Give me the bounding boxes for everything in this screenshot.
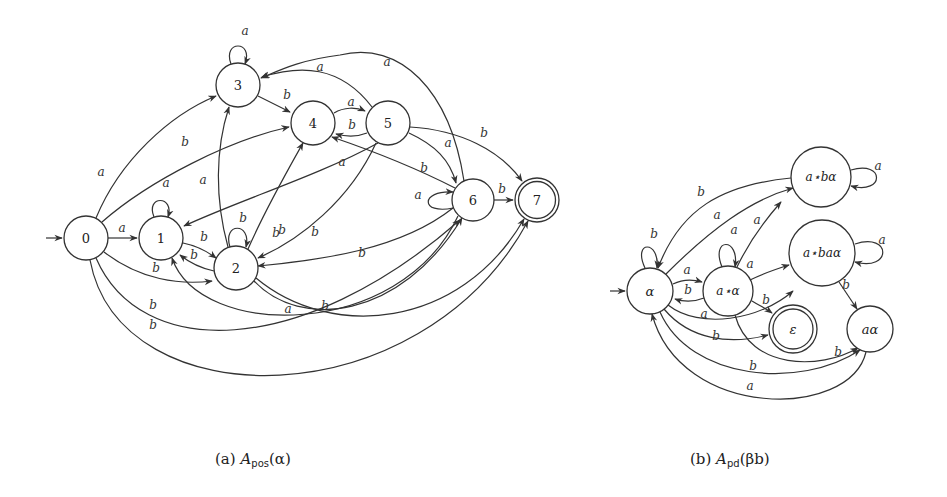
state-astar-ba-alpha: a⋆baα	[789, 220, 855, 286]
edge-label: b	[283, 88, 291, 102]
edge-label: b	[311, 225, 319, 239]
state-3: 3	[216, 63, 260, 107]
edge-label: b	[749, 359, 757, 373]
edge-label: a	[241, 24, 248, 38]
state-2: 2	[214, 246, 258, 290]
edge-3-3	[229, 46, 246, 64]
state-label: a⋆baα	[803, 246, 841, 260]
edge-astar-alpha-astar-alpha	[719, 245, 735, 268]
caption-prefix: (a)	[215, 450, 236, 468]
edge-label: b	[420, 161, 428, 175]
edge-label: b	[684, 283, 692, 297]
automaton-a-pos: a a b b b b a b b b a b a	[46, 24, 559, 376]
edge-label: b	[712, 329, 720, 343]
caption-b: (b) Apd(βb)	[690, 450, 770, 469]
edge-label: a	[414, 188, 421, 202]
edge-label: a	[383, 55, 390, 69]
state-label: 3	[234, 78, 242, 93]
edge-label: a	[444, 136, 451, 150]
edge-label: b	[190, 248, 198, 262]
edge-5-2	[258, 143, 376, 258]
state-label: a⋆α	[716, 284, 739, 298]
state-epsilon-final: ε	[769, 305, 817, 353]
edge-2-2	[229, 228, 247, 247]
edge-label: a	[199, 173, 206, 187]
edge-6-6	[428, 192, 453, 209]
caption-prefix: (b)	[690, 450, 711, 468]
edge-1-2	[183, 243, 216, 258]
edge-label: b	[348, 118, 356, 132]
state-label: α	[646, 284, 655, 299]
edge-label: a	[284, 302, 291, 316]
state-label: 4	[309, 116, 317, 131]
edge-label: b	[697, 185, 705, 199]
caption-symbol: A	[716, 450, 727, 468]
edge-label: b	[358, 246, 366, 260]
state-6: 6	[452, 179, 494, 221]
edge-label: a	[746, 257, 753, 271]
edge-5-1	[184, 143, 378, 226]
edge-label: a	[97, 165, 104, 179]
state-astar-alpha: a⋆α	[703, 266, 753, 316]
state-label: ε	[790, 322, 797, 337]
edge-alpha-alpha	[642, 247, 658, 268]
edge-6-2	[258, 208, 453, 266]
edge-label: a	[746, 379, 753, 393]
edge-label: b	[650, 227, 658, 241]
edge-label: a	[713, 208, 720, 222]
state-astar-b-alpha: a⋆bα	[791, 147, 851, 207]
caption-argument: (βb)	[740, 450, 770, 468]
state-4: 4	[291, 101, 335, 145]
edge-label: a	[700, 307, 707, 321]
edge-astar-alpha-alpha	[675, 298, 704, 301]
diagram-canvas: a a b b b b a b b b a b a	[0, 0, 947, 497]
edge-1-1	[152, 201, 169, 218]
state-label: 7	[533, 193, 541, 208]
edge-label: a	[162, 176, 169, 190]
state-label: a⋆bα	[806, 170, 837, 184]
state-1: 1	[139, 216, 183, 260]
edge-label: b	[181, 135, 189, 149]
edge-label: a	[316, 60, 323, 74]
state-7-final: 7	[515, 178, 559, 222]
edge-label: b	[149, 318, 157, 332]
edge-label: a	[730, 223, 737, 237]
edge-label: b	[834, 345, 842, 359]
caption-symbol: A	[240, 450, 251, 468]
caption-subscript: pd	[727, 458, 740, 469]
edge-label: a	[753, 213, 760, 227]
edge-label: b	[278, 223, 286, 237]
edge-alpha-a-alpha	[660, 312, 860, 374]
state-a-alpha: aα	[847, 306, 893, 352]
state-label: 6	[469, 193, 477, 208]
state-label: 2	[232, 261, 240, 276]
edge-5-4	[336, 133, 367, 136]
edge-label: b	[842, 278, 850, 292]
automaton-b-pd: b a b a b a b b a a a a b	[610, 147, 893, 399]
state-label: 5	[384, 116, 392, 131]
edge-0-3	[96, 96, 216, 218]
state-label: 0	[82, 231, 90, 246]
edge-label: a	[347, 95, 354, 109]
state-0: 0	[64, 216, 108, 260]
edge-label: b	[480, 126, 488, 140]
state-alpha: α	[627, 268, 673, 314]
state-label: aα	[862, 322, 879, 337]
edge-label: a	[118, 221, 125, 235]
edge-label: b	[149, 298, 157, 312]
edge-label: a	[338, 155, 345, 169]
caption-argument: (α)	[269, 450, 291, 468]
caption-subscript: pos	[251, 458, 269, 469]
edge-astar-alpha-astar-b-alpha	[737, 202, 781, 267]
edge-astar-alpha-astar-ba-alpha	[750, 265, 789, 280]
edge-label: a	[874, 159, 881, 173]
caption-a: (a) Apos(α)	[215, 450, 291, 469]
edge-label: b	[239, 211, 247, 225]
edge-label: a	[878, 233, 885, 247]
state-5: 5	[366, 101, 410, 145]
edge-label: a	[683, 263, 690, 277]
edge-0-4	[102, 127, 289, 222]
edge-label: b	[152, 261, 160, 275]
edge-astar-b-alpha-self	[851, 168, 877, 187]
edge-label: b	[762, 293, 770, 307]
